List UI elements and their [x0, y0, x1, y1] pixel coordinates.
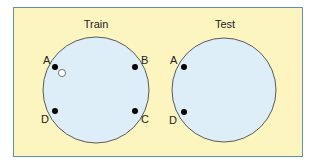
- train-point-c: [132, 108, 138, 114]
- train-point-b: [132, 64, 138, 70]
- train-point-a: [52, 64, 58, 70]
- train-label-d: D: [41, 113, 49, 125]
- test-label-d: D: [169, 114, 177, 126]
- train-panel: Train A B C D: [41, 18, 149, 143]
- diagram-canvas: Train A B C D Test A D: [0, 0, 315, 164]
- train-circle: [43, 37, 149, 143]
- train-point-d: [52, 108, 58, 114]
- test-label-a: A: [170, 54, 178, 66]
- test-panel: Test A D: [169, 18, 276, 142]
- train-title: Train: [84, 18, 109, 30]
- test-title: Test: [215, 18, 235, 30]
- test-point-d: [181, 109, 187, 115]
- train-label-b: B: [141, 54, 148, 66]
- test-point-a: [181, 64, 187, 70]
- test-circle: [172, 38, 276, 142]
- train-label-c: C: [141, 113, 149, 125]
- train-hollow-point: [58, 69, 65, 76]
- train-label-a: A: [43, 54, 51, 66]
